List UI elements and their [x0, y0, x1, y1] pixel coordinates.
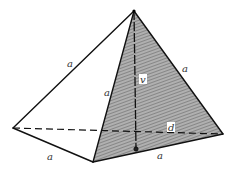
shaded-face: [93, 11, 223, 162]
label-edge-top-right: a: [182, 63, 188, 74]
label-edge-base-front: a: [157, 150, 163, 161]
height-foot-point: [134, 147, 138, 151]
pyramid-diagram: a a a a a v d: [0, 0, 229, 186]
edge-base-left: [13, 128, 93, 162]
label-height: v: [140, 74, 146, 85]
label-edge-top-left: a: [67, 58, 73, 69]
label-diagonal: d: [168, 122, 174, 133]
apex-point: [132, 9, 135, 12]
label-edge-base-left: a: [47, 151, 53, 162]
label-edge-front: a: [104, 87, 110, 98]
